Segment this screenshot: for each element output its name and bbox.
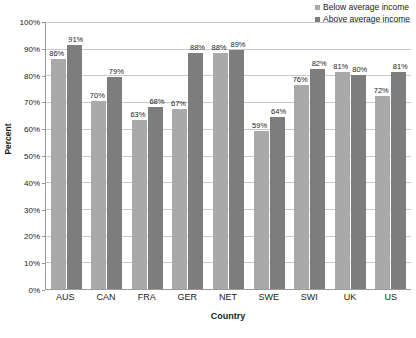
bar-value-label: 63% [130,110,145,119]
bar-value-label: 91% [68,35,83,44]
y-axis-tick-label: 80% [24,71,40,80]
bar-value-label: 64% [271,107,286,116]
bar-value-label: 82% [312,59,327,68]
bar[interactable]: 67% [172,109,187,289]
y-axis-tick-mark [42,290,45,291]
bar-value-label: 68% [149,97,164,106]
y-axis-tick-label: 100% [20,18,40,27]
x-axis-tick-label: SWE [248,292,289,302]
y-axis-tick-label: 50% [24,152,40,161]
y-axis-title-label: Percent [3,123,13,154]
bar-group: 76%82% [289,22,330,289]
bar[interactable]: 81% [335,72,350,289]
bar-value-label: 76% [293,75,308,84]
y-axis-title: Percent [2,0,14,278]
bar-value-label: 67% [171,99,186,108]
y-axis-tick-label: 10% [24,259,40,268]
bar-group: 67%88% [168,22,209,289]
plot-area: 86%91%70%79%63%68%67%88%88%89%59%64%76%8… [45,22,411,290]
bar-group: 86%91% [46,22,87,289]
y-axis-ticks: 0%10%20%30%40%50%60%70%80%90%100% [14,22,42,290]
bar-value-label: 81% [393,62,408,71]
bar-group: 72%81% [371,22,412,289]
y-axis-tick-label: 40% [24,178,40,187]
bar[interactable]: 86% [51,59,66,289]
x-axis-title: Country [45,311,411,321]
bar[interactable]: 63% [132,120,147,289]
bar-value-label: 89% [231,40,246,49]
x-axis-tick-label: AUS [45,292,86,302]
y-axis-tick-label: 70% [24,98,40,107]
bar[interactable]: 82% [310,69,325,289]
bar[interactable]: 80% [351,75,366,289]
bar[interactable]: 88% [188,53,203,289]
bar[interactable]: 89% [229,50,244,289]
bar[interactable]: 68% [148,107,163,289]
y-axis-tick-label: 0% [28,286,40,295]
bar-value-label: 59% [252,121,267,130]
x-axis-tick-label: US [370,292,411,302]
legend-item-below-average-income[interactable]: Below average income [315,2,409,13]
legend-label: Below average income [323,2,409,13]
bar[interactable]: 76% [294,85,309,289]
bar-group: 59%64% [249,22,290,289]
bar-group: 88%89% [208,22,249,289]
bar-value-label: 88% [212,43,227,52]
bar-value-label: 79% [109,67,124,76]
y-axis-tick-label: 60% [24,125,40,134]
x-axis-ticks: AUSCANFRAGERNETSWESWIUKUS [45,292,411,302]
bar-value-label: 88% [190,43,205,52]
bar-value-label: 86% [49,49,64,58]
bar-value-label: 80% [352,65,367,74]
bar-value-label: 81% [333,62,348,71]
bar-chart: Below average income Above average incom… [0,0,416,338]
bar-value-label: 70% [90,91,105,100]
x-axis-tick-label: NET [208,292,249,302]
bar[interactable]: 72% [375,96,390,289]
bar[interactable]: 81% [391,72,406,289]
x-axis-tick-label: GER [167,292,208,302]
bar[interactable]: 70% [91,101,106,289]
y-axis-tick-label: 90% [24,44,40,53]
bar-group: 63%68% [127,22,168,289]
bar[interactable]: 91% [67,45,82,289]
x-axis-tick-label: UK [330,292,371,302]
y-axis-tick-label: 30% [24,205,40,214]
bars-layer: 86%91%70%79%63%68%67%88%88%89%59%64%76%8… [46,22,411,289]
bar[interactable]: 79% [107,77,122,289]
y-axis-tick-label: 20% [24,232,40,241]
bar[interactable]: 59% [254,131,269,289]
bar-group: 70%79% [87,22,128,289]
bar[interactable]: 64% [270,117,285,289]
bar-value-label: 72% [374,86,389,95]
x-axis-tick-label: SWI [289,292,330,302]
bar[interactable]: 88% [213,53,228,289]
legend-swatch-icon [315,5,320,10]
x-axis-tick-label: CAN [86,292,127,302]
bar-group: 81%80% [330,22,371,289]
x-axis-tick-label: FRA [126,292,167,302]
